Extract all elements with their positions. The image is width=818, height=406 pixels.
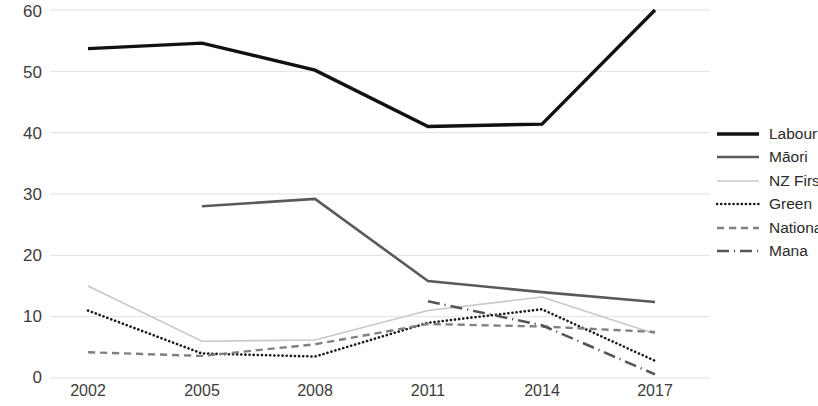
line-chart: 60 50 40 30 20 10 0 2002 2005 2008 2011 … [0,0,818,406]
legend-item-labour: Labour [716,122,818,146]
x-tick-2011: 2011 [388,382,468,400]
plot-area [0,0,818,406]
legend-key-mana-icon [716,244,760,258]
x-tick-2002: 2002 [48,382,128,400]
legend-item-green: Green [716,193,818,217]
y-tick-40: 40 [0,124,42,144]
legend-label-green: Green [769,195,812,213]
legend-label-maori: Māori [769,148,808,166]
legend-label-mana: Mana [769,242,808,260]
y-tick-50: 50 [0,63,42,83]
x-tick-2014: 2014 [502,382,582,400]
series-line-labour [88,10,655,127]
y-tick-10: 10 [0,307,42,327]
legend-item-maori: Māori [716,146,818,170]
legend-item-national: National [716,216,818,240]
series-lines [88,10,655,374]
series-line-mana [428,301,655,374]
legend-label-national: National [769,219,818,237]
legend-key-nz-first-icon [716,174,760,188]
legend-item-mana: Mana [716,240,818,264]
x-tick-2008: 2008 [275,382,355,400]
legend: Labour Māori NZ First Green National Man… [716,122,818,263]
y-tick-0: 0 [0,368,42,388]
legend-key-green-icon [716,197,760,211]
x-tick-2017: 2017 [615,382,695,400]
legend-key-labour-icon [716,127,760,141]
series-line-māori [202,199,655,302]
y-tick-30: 30 [0,185,42,205]
y-tick-60: 60 [0,2,42,22]
legend-key-national-icon [716,221,760,235]
legend-key-maori-icon [716,150,760,164]
legend-item-nz-first: NZ First [716,169,818,193]
y-tick-20: 20 [0,246,42,266]
legend-label-labour: Labour [769,125,817,143]
x-tick-2005: 2005 [162,382,242,400]
legend-label-nz-first: NZ First [769,172,818,190]
